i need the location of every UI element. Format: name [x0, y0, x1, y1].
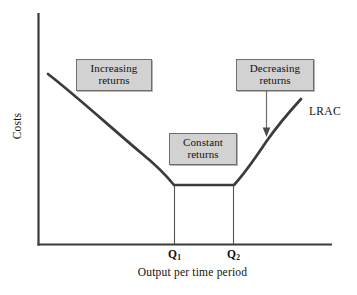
- y-axis-title: Costs: [11, 96, 23, 156]
- annotation-increasing-returns-line1: Increasing: [82, 63, 146, 75]
- lrac-cost-curve-figure: Increasing returns Decreasing returns Co…: [0, 0, 357, 295]
- xtick-label-q2-subscript: 2: [236, 253, 240, 262]
- lrac-curve-label: LRAC: [309, 105, 341, 117]
- xtick-label-q1-base: Q: [168, 248, 177, 260]
- annotation-increasing-returns: Increasing returns: [76, 59, 152, 91]
- annotation-constant-returns: Constant returns: [169, 133, 237, 165]
- xtick-label-q2-base: Q: [227, 248, 236, 260]
- xtick-label-q1-subscript: 1: [177, 253, 181, 262]
- xtick-label-q2: Q2: [227, 248, 240, 260]
- x-axis-title: Output per time period: [0, 266, 357, 278]
- annotation-increasing-returns-line2: returns: [82, 75, 146, 87]
- annotation-decreasing-returns-line1: Decreasing: [242, 63, 308, 75]
- annotation-constant-returns-line2: returns: [175, 149, 231, 161]
- annotation-constant-returns-line1: Constant: [175, 137, 231, 149]
- annotation-decreasing-returns-line2: returns: [242, 75, 308, 87]
- annotation-decreasing-returns: Decreasing returns: [236, 59, 314, 91]
- xtick-label-q1: Q1: [168, 248, 181, 260]
